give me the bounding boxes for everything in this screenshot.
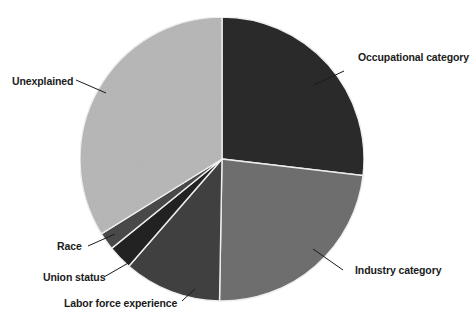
- slice-label-occupational-category: Occupational category: [358, 51, 469, 63]
- slice-label-industry-category: Industry category: [355, 264, 441, 276]
- leader-line-union-status: [104, 262, 130, 277]
- pie-slice-industry-category: [220, 159, 364, 301]
- pie-slices-group: [80, 17, 364, 301]
- slice-label-union-status: Union status: [43, 271, 105, 283]
- pie-chart-figure: Occupational category Industry category …: [0, 0, 474, 328]
- slice-label-race: Race: [57, 240, 82, 252]
- slice-label-labor-force-experience: Labor force experience: [64, 297, 177, 309]
- pie-slice-occupational-category: [222, 17, 364, 176]
- slice-label-unexplained: Unexplained: [12, 75, 73, 87]
